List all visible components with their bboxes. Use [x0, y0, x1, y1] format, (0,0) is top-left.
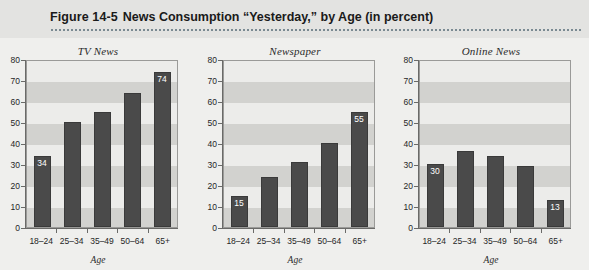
- y-axis-tick: [21, 81, 26, 82]
- bar-value-label: 15: [232, 199, 247, 208]
- x-axis-tick: [449, 228, 450, 233]
- y-axis-tick-label: 60: [0, 98, 20, 106]
- bar[interactable]: [487, 156, 504, 227]
- y-axis-tick: [218, 102, 223, 103]
- x-axis-category-label: 65+: [535, 236, 577, 246]
- chart-panel-3: Online News30130102030405060708018–2425–…: [393, 40, 589, 270]
- y-axis-tick: [414, 123, 419, 124]
- y-axis-tick-label: 80: [393, 56, 413, 64]
- y-axis-tick: [21, 60, 26, 61]
- bar-slot: 13: [547, 61, 564, 227]
- x-axis-title: Age: [197, 255, 393, 265]
- y-axis-tick-label: 30: [0, 161, 20, 169]
- plot-area: 3474: [26, 60, 178, 228]
- y-axis-tick: [414, 102, 419, 103]
- bar[interactable]: 55: [351, 112, 368, 228]
- bar[interactable]: 13: [547, 200, 564, 227]
- bar-slot: [517, 61, 534, 227]
- x-axis-tick: [253, 228, 254, 233]
- bar-slot: [94, 61, 111, 227]
- y-axis-tick: [21, 186, 26, 187]
- y-axis-tick-label: 70: [197, 77, 217, 85]
- bar-slot: 74: [154, 61, 171, 227]
- panel-title: TV News: [0, 45, 196, 57]
- y-axis-tick-label: 0: [197, 224, 217, 232]
- y-axis-tick-label: 40: [0, 140, 20, 148]
- x-axis-tick: [345, 228, 346, 233]
- bar-value-label: 74: [155, 75, 170, 84]
- y-axis-tick: [414, 60, 419, 61]
- y-axis-tick: [414, 81, 419, 82]
- bar-slot: 55: [351, 61, 368, 227]
- y-axis-tick-label: 80: [0, 56, 20, 64]
- x-axis-tick: [87, 228, 88, 233]
- bar-slot: [124, 61, 141, 227]
- y-axis-tick-label: 0: [0, 224, 20, 232]
- y-axis-tick-label: 60: [393, 98, 413, 106]
- bar-slot: [291, 61, 308, 227]
- x-axis-tick: [510, 228, 511, 233]
- x-axis-title: Age: [0, 255, 196, 265]
- bar[interactable]: [94, 112, 111, 228]
- x-axis-category-label: 65+: [142, 236, 184, 246]
- bar-group: 3474: [27, 61, 177, 227]
- plot-area: 1555: [223, 60, 375, 228]
- bar[interactable]: [64, 122, 81, 227]
- bar-slot: [261, 61, 278, 227]
- bar[interactable]: [291, 162, 308, 227]
- x-axis-line: [223, 228, 375, 229]
- y-axis-tick: [21, 102, 26, 103]
- y-axis-tick: [21, 165, 26, 166]
- y-axis-tick: [414, 186, 419, 187]
- y-axis-tick-label: 70: [0, 77, 20, 85]
- y-axis-tick-label: 50: [197, 119, 217, 127]
- bar-slot: 34: [34, 61, 51, 227]
- chart-panel-2: Newspaper15550102030405060708018–2425–34…: [197, 40, 393, 270]
- y-axis-tick-label: 20: [0, 182, 20, 190]
- bar-value-label: 34: [35, 159, 50, 168]
- bar[interactable]: 34: [34, 156, 51, 227]
- bar[interactable]: [261, 177, 278, 227]
- bar[interactable]: 30: [427, 164, 444, 227]
- plot-area: 3013: [419, 60, 571, 228]
- y-axis-tick-label: 80: [197, 56, 217, 64]
- y-axis-tick-label: 10: [197, 203, 217, 211]
- y-axis-tick-label: 40: [393, 140, 413, 148]
- y-axis-tick-label: 20: [393, 182, 413, 190]
- bar[interactable]: [124, 93, 141, 227]
- dotted-divider: [50, 29, 582, 31]
- bar-value-label: 13: [548, 203, 563, 212]
- bar-value-label: 30: [428, 167, 443, 176]
- panel-title: Newspaper: [197, 45, 393, 57]
- y-axis-tick: [21, 144, 26, 145]
- bar-slot: 15: [231, 61, 248, 227]
- figure-header-band: Figure 14-5News Consumption “Yesterday,”…: [0, 0, 589, 38]
- y-axis-tick: [218, 186, 223, 187]
- chart-panels-container: TV News34740102030405060708018–2425–3435…: [0, 40, 589, 270]
- y-axis-tick: [21, 207, 26, 208]
- bar[interactable]: [517, 166, 534, 227]
- chart-panel-1: TV News34740102030405060708018–2425–3435…: [0, 40, 196, 270]
- y-axis-tick-label: 30: [393, 161, 413, 169]
- bar-slot: [64, 61, 81, 227]
- bar[interactable]: 15: [231, 196, 248, 228]
- bar[interactable]: [457, 151, 474, 227]
- x-axis-line: [26, 228, 178, 229]
- x-axis-tick: [480, 228, 481, 233]
- y-axis-tick: [218, 165, 223, 166]
- bar[interactable]: [321, 143, 338, 227]
- y-axis-tick-label: 10: [0, 203, 20, 211]
- y-axis-tick: [218, 144, 223, 145]
- x-axis-tick: [541, 228, 542, 233]
- x-axis-title: Age: [393, 255, 589, 265]
- y-axis-tick: [218, 123, 223, 124]
- y-axis-tick-label: 60: [197, 98, 217, 106]
- y-axis-tick: [414, 207, 419, 208]
- y-axis-tick-label: 20: [197, 182, 217, 190]
- bar-group: 3013: [420, 61, 570, 227]
- bar[interactable]: 74: [154, 72, 171, 227]
- x-axis-tick: [117, 228, 118, 233]
- x-axis-tick: [148, 228, 149, 233]
- x-axis-tick: [284, 228, 285, 233]
- x-axis-line: [419, 228, 571, 229]
